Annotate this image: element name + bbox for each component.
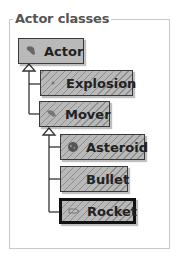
class-bullet[interactable]: Bullet (60, 166, 128, 192)
asteroid-icon (66, 140, 80, 154)
class-label: Asteroid (86, 140, 148, 155)
class-rocket[interactable]: Rocket (59, 198, 136, 224)
class-asteroid[interactable]: Asteroid (60, 134, 145, 160)
mover-icon (45, 107, 59, 121)
bullet-icon (66, 172, 80, 186)
class-label: Mover (65, 107, 111, 122)
explosion-icon (46, 76, 60, 90)
class-label: Explosion (66, 76, 136, 91)
rocket-icon (67, 204, 81, 218)
class-actor[interactable]: Actor (18, 38, 84, 64)
class-mover[interactable]: Mover (39, 101, 110, 127)
actor-icon (24, 44, 38, 58)
class-label: Rocket (87, 204, 137, 219)
class-explosion[interactable]: Explosion (40, 70, 133, 96)
class-label: Actor (44, 44, 83, 59)
class-label: Bullet (86, 172, 129, 187)
